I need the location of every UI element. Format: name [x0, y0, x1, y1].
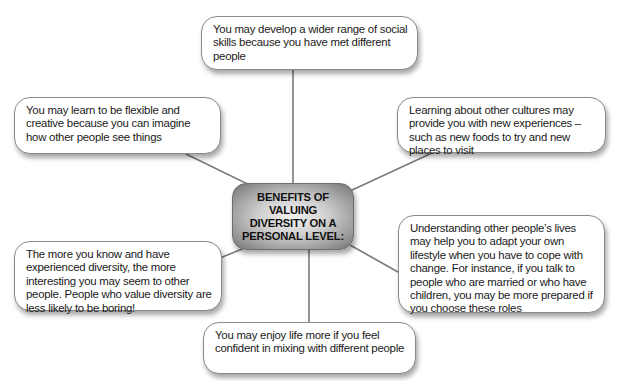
node-upper-right-text: Learning about other cultures may provid…	[409, 104, 581, 156]
node-top: You may develop a wider range of social …	[201, 16, 418, 70]
node-upper-left: You may learn to be flexible and creativ…	[14, 97, 221, 154]
central-topic: BENEFITS OF VALUING DIVERSITY ON A PERSO…	[232, 183, 354, 250]
connector-upper-right	[350, 153, 432, 191]
node-bottom: You may enjoy life more if you feel conf…	[203, 322, 416, 374]
node-lower-right: Understanding other people’s lives may h…	[398, 215, 605, 313]
node-upper-left-text: You may learn to be flexible and creativ…	[26, 104, 190, 143]
node-lower-left-text: The more you know and have experienced d…	[26, 248, 212, 314]
connector-lower-right	[350, 245, 398, 272]
node-upper-right: Learning about other cultures may provid…	[397, 97, 606, 153]
node-lower-left: The more you know and have experienced d…	[14, 241, 222, 311]
central-topic-label: BENEFITS OF VALUING DIVERSITY ON A PERSO…	[241, 191, 345, 243]
node-top-text: You may develop a wider range of social …	[213, 23, 407, 62]
node-lower-right-text: Understanding other people’s lives may h…	[410, 222, 593, 314]
node-bottom-text: You may enjoy life more if you feel conf…	[215, 329, 404, 354]
